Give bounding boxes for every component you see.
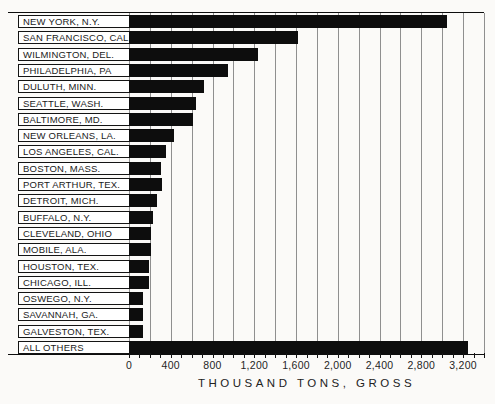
- gridline: [380, 13, 381, 354]
- gridline: [296, 13, 297, 354]
- bar-15: [129, 243, 151, 256]
- bar-18: [129, 292, 143, 305]
- gridline: [442, 13, 443, 354]
- gridline: [359, 13, 360, 354]
- category-label-7: BALTIMORE, MD.: [18, 113, 133, 126]
- bar-12: [129, 194, 157, 207]
- bar-11: [129, 178, 162, 191]
- axis-tick: [223, 353, 224, 358]
- axis-tick: [390, 353, 391, 358]
- bar-19: [129, 308, 143, 321]
- axis-tick: [129, 353, 130, 358]
- category-label-4: PHILADELPHIA, PA: [18, 64, 133, 77]
- axis-tick: [150, 353, 151, 358]
- gridline: [254, 13, 255, 354]
- category-label-5: DULUTH, MINN.: [18, 80, 133, 93]
- axis-tick: [442, 353, 443, 358]
- axis-tick: [254, 353, 255, 358]
- axis-tick: [463, 353, 464, 358]
- axis-tick: [244, 353, 245, 358]
- bar-14: [129, 227, 151, 240]
- category-label-1: NEW YORK, N.Y.: [18, 15, 133, 28]
- bar-7: [129, 113, 193, 126]
- gridline: [421, 13, 422, 354]
- axis-tick: [160, 353, 161, 358]
- bar-8: [129, 129, 174, 142]
- category-label-17: CHICAGO, ILL.: [18, 276, 133, 289]
- axis-tick: [380, 353, 381, 358]
- category-label-13: BUFFALO, N.Y.: [18, 211, 133, 224]
- bar-1: [129, 15, 447, 28]
- bar-6: [129, 97, 196, 110]
- bar-3: [129, 48, 258, 61]
- category-label-19: SAVANNAH, GA.: [18, 308, 133, 321]
- category-label-6: SEATTLE, WASH.: [18, 97, 133, 110]
- bar-17: [129, 276, 149, 289]
- axis-tick: [484, 353, 485, 358]
- gridline: [317, 13, 318, 354]
- axis-tick: [327, 353, 328, 358]
- axis-tick: [233, 353, 234, 358]
- axis-tick: [338, 353, 339, 358]
- bar-5: [129, 80, 204, 93]
- category-label-15: MOBILE, ALA.: [18, 243, 133, 256]
- category-label-9: LOS ANGELES, CAL.: [18, 145, 133, 158]
- gridline: [233, 13, 234, 354]
- category-label-11: PORT ARTHUR, TEX.: [18, 178, 133, 191]
- axis-tick: [213, 353, 214, 358]
- chart-frame: NEW YORK, N.Y.SAN FRANCISCO, CAL.WILMING…: [8, 12, 484, 355]
- axis-tick: [317, 353, 318, 358]
- gridline: [484, 13, 485, 354]
- axis-tick-label: 0: [107, 359, 151, 371]
- bar-9: [129, 145, 166, 158]
- axis-tick: [421, 353, 422, 358]
- category-label-8: NEW ORLEANS, LA.: [18, 129, 133, 142]
- axis-tick: [202, 353, 203, 358]
- axis-tick: [181, 353, 182, 358]
- axis-tick: [265, 353, 266, 358]
- category-label-2: SAN FRANCISCO, CAL.: [18, 31, 133, 44]
- bar-4: [129, 64, 228, 77]
- x-axis: 04008001,2001,6002,0002,4002,8003,200 TH…: [8, 353, 484, 403]
- axis-tick-label: 800: [191, 359, 235, 371]
- axis-tick: [171, 353, 172, 358]
- axis-tick: [307, 353, 308, 358]
- axis-tick: [474, 353, 475, 358]
- axis-tick: [369, 353, 370, 358]
- category-label-12: DETROIT, MICH.: [18, 194, 133, 207]
- axis-tick: [453, 353, 454, 358]
- axis-tick: [286, 353, 287, 358]
- category-label-3: WILMINGTON, DEL.: [18, 48, 133, 61]
- category-label-10: BOSTON, MASS.: [18, 162, 133, 175]
- bar-2: [129, 31, 298, 44]
- axis-tick-label: 3,200: [441, 359, 485, 371]
- axis-tick-label: 2,800: [399, 359, 443, 371]
- axis-tick: [296, 353, 297, 358]
- category-label-18: OSWEGO, N.Y.: [18, 292, 133, 305]
- category-label-20: GALVESTON, TEX.: [18, 325, 133, 338]
- axis-tick: [432, 353, 433, 358]
- gridline: [275, 13, 276, 354]
- axis-tick: [411, 353, 412, 358]
- gridline: [400, 13, 401, 354]
- axis-tick-label: 2,400: [358, 359, 402, 371]
- gridline: [338, 13, 339, 354]
- bar-10: [129, 162, 161, 175]
- bar-13: [129, 211, 153, 224]
- axis-tick: [400, 353, 401, 358]
- category-label-16: HOUSTON, TEX.: [18, 260, 133, 273]
- bar-16: [129, 260, 149, 273]
- axis-tick: [348, 353, 349, 358]
- axis-tick: [139, 353, 140, 358]
- axis-tick: [275, 353, 276, 358]
- x-axis-title: THOUSAND TONS, GROSS: [129, 377, 484, 389]
- axis-tick: [359, 353, 360, 358]
- axis-tick-label: 1,600: [274, 359, 318, 371]
- axis-tick: [192, 353, 193, 358]
- category-label-14: CLEVELAND, OHIO: [18, 227, 133, 240]
- bar-20: [129, 325, 143, 338]
- gridline: [463, 13, 464, 354]
- axis-tick-label: 400: [149, 359, 193, 371]
- axis-tick-label: 1,200: [232, 359, 276, 371]
- axis-tick-label: 2,000: [316, 359, 360, 371]
